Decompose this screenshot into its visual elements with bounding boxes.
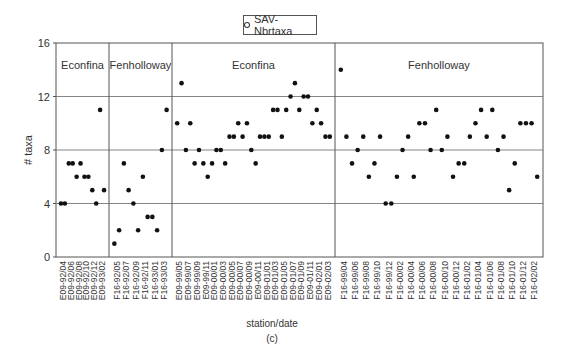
data-point [529, 121, 534, 126]
data-point [456, 161, 461, 166]
data-point [293, 81, 298, 86]
data-point [66, 161, 71, 166]
data-point [314, 108, 319, 113]
data-point [417, 121, 422, 126]
data-point [395, 174, 400, 179]
x-tick-label: F16-01/10 [507, 261, 517, 300]
legend: SAV-Nbrtaxa [243, 15, 317, 35]
data-point [266, 134, 271, 139]
x-tick-label: F16-99/10 [372, 261, 382, 300]
data-point [112, 241, 117, 246]
data-point [197, 148, 202, 153]
x-tick-label: F16-01/12 [518, 261, 528, 300]
y-tick-label: 16 [38, 37, 50, 49]
data-point [192, 161, 197, 166]
data-point [145, 215, 150, 220]
data-point [240, 134, 245, 139]
x-tick-label: F16-02/02 [529, 261, 539, 300]
y-tick-label: 4 [44, 198, 50, 210]
data-point [468, 134, 473, 139]
data-point [288, 94, 293, 99]
x-tick-label: F16-00/12 [451, 261, 461, 300]
x-tick-label: F16-01/06 [485, 261, 495, 300]
data-point [271, 108, 276, 113]
data-point [150, 215, 155, 220]
x-tick-label: F16-00/02 [395, 261, 405, 300]
data-point [63, 201, 68, 206]
x-tick-label: F16-99/06 [350, 261, 360, 300]
data-point [361, 134, 366, 139]
data-point [297, 108, 302, 113]
data-point [306, 94, 311, 99]
data-point [214, 148, 219, 153]
x-tick-label: F16-93/03 [159, 261, 169, 300]
data-point [440, 148, 445, 153]
data-point [78, 161, 83, 166]
data-point [155, 228, 160, 233]
data-point [280, 134, 285, 139]
data-point [501, 134, 506, 139]
data-point [323, 134, 328, 139]
data-point [59, 201, 64, 206]
x-tick-label: F16-01/08 [496, 261, 506, 300]
legend-label: SAV-Nbrtaxa [254, 13, 316, 37]
x-tick-label: F16-01/02 [462, 261, 472, 300]
data-point [389, 201, 394, 206]
data-point [102, 188, 107, 193]
data-point [136, 228, 141, 233]
data-point [535, 174, 540, 179]
y-tick-label: 8 [44, 144, 50, 156]
data-point [344, 134, 349, 139]
x-tick-label: F16-00/04 [406, 261, 416, 300]
data-point [423, 121, 428, 126]
data-point [355, 148, 360, 153]
x-tick-label: E09-93/02 [97, 261, 107, 300]
data-point [406, 134, 411, 139]
data-point [473, 121, 478, 126]
data-point [339, 67, 344, 72]
data-point [188, 121, 193, 126]
x-tick-label: F16-92/11 [140, 261, 150, 299]
data-point [451, 174, 456, 179]
data-point [428, 148, 433, 153]
data-point [434, 108, 439, 113]
data-point [262, 134, 267, 139]
data-point [319, 121, 324, 126]
data-point [122, 161, 127, 166]
data-point [249, 148, 254, 153]
data-point [223, 161, 228, 166]
data-point [184, 148, 189, 153]
data-point [518, 121, 523, 126]
x-tick-label: F16-00/08 [428, 261, 438, 300]
data-point [126, 188, 131, 193]
data-point [462, 161, 467, 166]
data-point [245, 121, 250, 126]
x-tick-label: F16-92/07 [121, 261, 131, 300]
data-point [328, 134, 333, 139]
x-tick-label: F16-00/10 [440, 261, 450, 300]
data-point [445, 134, 450, 139]
data-point [236, 121, 241, 126]
data-point [383, 201, 388, 206]
data-point [90, 188, 95, 193]
data-point [350, 161, 355, 166]
figure-caption: (c) [266, 333, 278, 344]
section-label: Fenholloway [110, 59, 172, 71]
section-label: Econfina [61, 59, 105, 71]
x-tick-label: F16-99/12 [384, 261, 394, 300]
data-point [310, 121, 315, 126]
data-point [411, 174, 416, 179]
x-tick-label: F16-93/01 [150, 261, 160, 300]
legend-marker-icon [244, 22, 250, 28]
data-point [484, 134, 489, 139]
data-point [86, 174, 91, 179]
data-point [227, 134, 232, 139]
data-point [479, 108, 484, 113]
data-point [372, 161, 377, 166]
data-point [164, 108, 169, 113]
data-point [232, 134, 237, 139]
data-point [160, 148, 165, 153]
x-tick-label: F16-01/04 [473, 261, 483, 300]
data-point [94, 201, 99, 206]
x-tick-label: F16-92/05 [112, 261, 122, 300]
